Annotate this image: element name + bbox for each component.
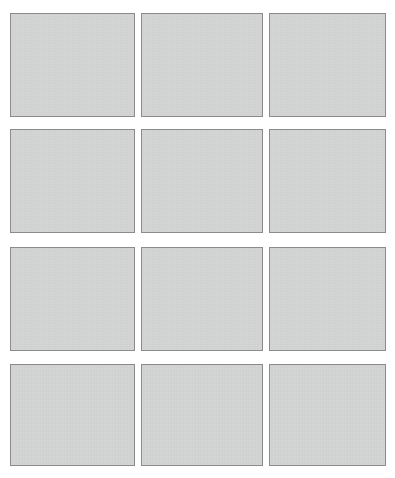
tile-r1-c3[interactable] [269,13,386,117]
tile-r3-c1[interactable] [10,247,135,351]
tile-label [270,365,385,465]
tile-r1-c2[interactable] [141,13,263,117]
tile-grid-row [0,129,395,235]
tile-r4-c2[interactable] [141,364,263,466]
tile-r3-c3[interactable] [269,247,386,351]
tile-r2-c1[interactable] [10,129,135,233]
tile-label [142,14,262,116]
tile-label [142,365,262,465]
tile-label [142,248,262,350]
tile-r2-c2[interactable] [141,129,263,233]
tile-r1-c1[interactable] [10,13,135,117]
tile-grid-row [0,247,395,353]
tile-label [11,365,134,465]
tile-label [270,248,385,350]
tile-label [11,248,134,350]
tile-label [11,130,134,232]
tile-r3-c2[interactable] [141,247,263,351]
tile-label [142,130,262,232]
tile-r4-c1[interactable] [10,364,135,466]
tile-label [270,130,385,232]
tile-r2-c3[interactable] [269,129,386,233]
placeholder-tile-grid [0,0,395,478]
tile-label [270,14,385,116]
tile-r4-c3[interactable] [269,364,386,466]
tile-grid-row [0,364,395,470]
tile-label [11,14,134,116]
tile-grid-row [0,13,395,119]
